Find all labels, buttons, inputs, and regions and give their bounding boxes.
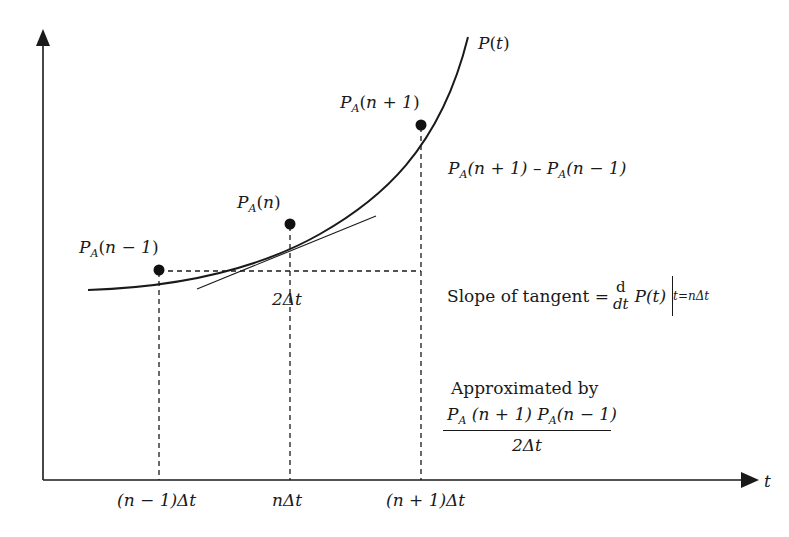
tangent-slope-formula: Slope of tangent = d dt P(t) t=nΔt xyxy=(447,276,709,316)
point-label-base: P xyxy=(79,237,90,257)
evaluation-point: t=nΔt xyxy=(673,290,709,302)
point-label-sub: A xyxy=(351,102,359,115)
point-label-arg: n + 1 xyxy=(366,92,413,112)
horizontal-span-label: 2Δt xyxy=(272,291,302,308)
point-pa-n xyxy=(285,219,296,230)
x-tick-n: nΔt xyxy=(272,492,302,509)
point-label-pa-n-plus-1: PA(n + 1) xyxy=(340,94,420,114)
approx-p2-sub: A xyxy=(549,414,557,427)
point-label-pa-n-minus-1: PA(n − 1) xyxy=(79,239,159,259)
point-label-arg: n xyxy=(263,192,274,212)
approx-p1-base: P xyxy=(447,404,458,424)
diff-p2-base: P xyxy=(547,158,558,178)
approximation-fraction: PA (n + 1) PA(n − 1) 2Δt xyxy=(443,406,611,454)
point-label-sub: A xyxy=(90,247,98,260)
curve-label: P(t) xyxy=(478,35,510,52)
approx-p1-arg: (n + 1) xyxy=(466,404,537,424)
vertical-difference-label: PA(n + 1) – PA(n − 1) xyxy=(448,160,626,180)
diff-operator: – xyxy=(528,158,547,178)
derivative-operator: d dt xyxy=(613,279,629,314)
y-axis-arrow-icon xyxy=(36,29,50,46)
point-pa-n-minus-1 xyxy=(154,265,165,276)
approximation-numerator: PA (n + 1) PA(n − 1) xyxy=(443,406,611,431)
approximation-denominator: 2Δt xyxy=(443,431,611,454)
derivative-numerator: d xyxy=(613,279,629,296)
point-label-base: P xyxy=(237,192,248,212)
diagram-canvas xyxy=(0,0,789,537)
approx-p2-base: P xyxy=(537,404,548,424)
point-pa-n-plus-1 xyxy=(416,120,427,131)
x-tick-n-minus-1: (n − 1)Δt xyxy=(117,492,196,509)
curve-label-arg: t xyxy=(496,33,503,53)
x-axis-label: t xyxy=(764,473,771,490)
point-label-arg: n − 1 xyxy=(105,237,152,257)
x-axis-arrow-icon xyxy=(741,472,759,488)
point-label-sub: A xyxy=(248,202,256,215)
diff-p1-base: P xyxy=(448,158,459,178)
approx-p2-arg: (n − 1) xyxy=(557,404,617,424)
derivative-denominator: dt xyxy=(613,296,629,313)
derivative-function: P(t) xyxy=(635,288,667,305)
tangent-slope-prefix: Slope of tangent = xyxy=(447,288,609,305)
x-tick-n-plus-1: (n + 1)Δt xyxy=(386,492,465,509)
approximation-caption: Approximated by xyxy=(451,380,598,397)
point-label-pa-n: PA(n) xyxy=(237,194,281,214)
curve-label-func: P xyxy=(478,33,489,53)
diff-p1-arg: (n + 1) xyxy=(467,158,527,178)
point-label-base: P xyxy=(340,92,351,112)
diff-p2-arg: (n − 1) xyxy=(566,158,626,178)
